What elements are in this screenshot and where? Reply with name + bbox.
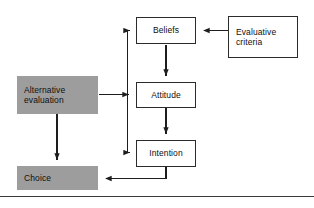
edge-intention-to-choice (106, 167, 167, 179)
node-alternative-evaluation-label: Alternative evaluation (17, 85, 65, 105)
node-beliefs-label: Beliefs (153, 25, 179, 35)
node-choice-label: Choice (17, 173, 51, 183)
node-evaluative-criteria-label: Evaluative criteria (229, 27, 276, 47)
node-attitude[interactable]: Attitude (136, 82, 196, 108)
node-evaluative-criteria[interactable]: Evaluative criteria (228, 16, 298, 58)
node-beliefs[interactable]: Beliefs (136, 17, 196, 44)
node-intention-label: Intention (149, 148, 183, 158)
node-attitude-label: Attitude (151, 90, 181, 100)
node-choice[interactable]: Choice (17, 166, 98, 190)
node-intention[interactable]: Intention (136, 140, 196, 167)
diagram-canvas: Beliefs Evaluative criteria Attitude Int… (0, 0, 314, 208)
bottom-divider (0, 196, 314, 197)
node-alternative-evaluation[interactable]: Alternative evaluation (17, 76, 98, 114)
